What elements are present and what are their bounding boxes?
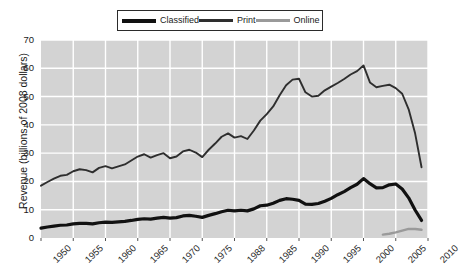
y-tick-label: 70 bbox=[8, 35, 34, 45]
y-tick-label: 40 bbox=[8, 120, 34, 130]
y-tick-label: 30 bbox=[8, 148, 34, 158]
y-tick-label: 20 bbox=[8, 176, 34, 186]
y-tick-label: 60 bbox=[8, 63, 34, 73]
y-tick-label: 50 bbox=[8, 92, 34, 102]
x-tick-label: 2010 bbox=[438, 243, 460, 265]
y-tick-label: 10 bbox=[8, 205, 34, 215]
y-tick-label: 0 bbox=[8, 233, 34, 243]
